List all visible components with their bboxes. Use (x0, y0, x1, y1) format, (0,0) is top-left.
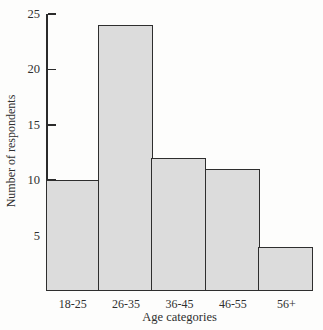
bar-36-45 (151, 158, 206, 291)
y-tick-label-10: 10 (8, 174, 40, 186)
y-tick-15 (48, 124, 56, 126)
y-tick-label-25: 25 (8, 8, 40, 20)
y-tick-label-15: 15 (8, 119, 40, 131)
bar-26-35 (98, 25, 153, 291)
y-tick-25 (48, 13, 56, 15)
bar-18-25 (46, 180, 99, 291)
y-tick-label-20: 20 (8, 63, 40, 75)
histogram-figure: Number of respondents 51015202518-2526-3… (0, 0, 323, 330)
y-axis-title: Number of respondents (4, 95, 19, 208)
bar-46-55 (205, 169, 260, 291)
y-tick-20 (48, 69, 56, 71)
bar-56+ (258, 247, 313, 291)
x-axis-title: Age categories (46, 310, 313, 325)
y-tick-label-5: 5 (8, 230, 40, 242)
